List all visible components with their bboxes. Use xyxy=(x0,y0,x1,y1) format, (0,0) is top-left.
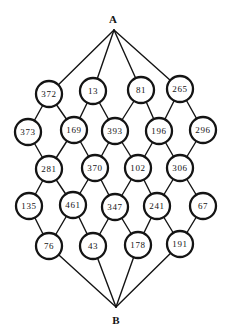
node-label-370: 370 xyxy=(87,163,102,173)
nodes-layer: 3721381265373169393196296281370102306135… xyxy=(15,76,216,259)
network-diagram: 3721381265373169393196296281370102306135… xyxy=(0,0,234,336)
node-label-265: 265 xyxy=(172,84,187,94)
node-label-373: 373 xyxy=(20,127,35,137)
node-label-306: 306 xyxy=(172,163,187,173)
node-label-461: 461 xyxy=(65,200,80,210)
node-label-347: 347 xyxy=(107,202,122,212)
terminal-label-B: B xyxy=(112,314,120,326)
node-label-372: 372 xyxy=(41,89,56,99)
node-label-76: 76 xyxy=(44,241,54,251)
terminal-label-A: A xyxy=(109,13,117,25)
node-label-196: 196 xyxy=(151,126,166,136)
node-label-67: 67 xyxy=(198,201,208,211)
node-label-81: 81 xyxy=(136,85,146,95)
node-label-43: 43 xyxy=(88,241,98,251)
node-label-13: 13 xyxy=(88,86,98,96)
node-label-296: 296 xyxy=(195,125,210,135)
lattice-graph: 3721381265373169393196296281370102306135… xyxy=(0,0,234,336)
node-label-191: 191 xyxy=(172,239,187,249)
node-label-178: 178 xyxy=(130,240,145,250)
node-label-135: 135 xyxy=(21,201,36,211)
node-label-102: 102 xyxy=(130,163,145,173)
node-label-241: 241 xyxy=(149,201,164,211)
node-label-393: 393 xyxy=(107,126,122,136)
node-label-281: 281 xyxy=(41,164,56,174)
terminal-labels-layer: AB xyxy=(109,13,120,326)
node-label-169: 169 xyxy=(66,125,81,135)
